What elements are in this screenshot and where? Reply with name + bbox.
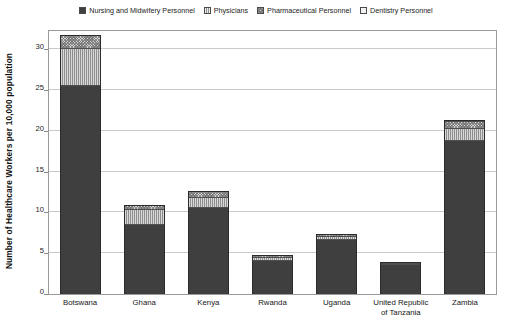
legend-item-nursing: Nursing and Midwifery Personnel xyxy=(79,6,194,15)
bar-kenya[interactable] xyxy=(188,191,229,294)
y-tick-label-0: 0 xyxy=(14,287,44,296)
x-axis-label-united-republic-of-tanzania: United Republicof Tanzania xyxy=(369,298,433,318)
nursing-swatch-icon xyxy=(79,7,86,14)
physicians-swatch-icon xyxy=(204,7,211,14)
bar-slot-rwanda xyxy=(241,31,305,294)
dentistry-swatch-icon xyxy=(360,7,367,14)
x-axis-label-zambia: Zambia xyxy=(433,298,497,318)
bar-segment-nursing[interactable] xyxy=(125,225,164,294)
y-tick-label-25: 25 xyxy=(14,83,44,92)
plot-area xyxy=(48,30,497,295)
y-axis-ticks: 051015202530 xyxy=(0,30,48,295)
x-axis-label-line: United Republic xyxy=(373,298,428,307)
x-axis-label-line: Kenya xyxy=(197,298,219,307)
x-axis-label-botswana: Botswana xyxy=(48,298,112,318)
bar-segment-physicians[interactable] xyxy=(125,210,164,225)
legend-label-nursing: Nursing and Midwifery Personnel xyxy=(89,6,194,15)
bar-slot-kenya xyxy=(177,31,241,294)
bar-segment-pharmaceutical[interactable] xyxy=(445,122,484,129)
bar-rwanda[interactable] xyxy=(252,255,293,294)
bar-uganda[interactable] xyxy=(316,234,357,295)
y-tick-label-15: 15 xyxy=(14,164,44,173)
bar-segment-pharmaceutical[interactable] xyxy=(61,36,100,49)
bar-segment-nursing[interactable] xyxy=(445,141,484,294)
pharmaceutical-swatch-icon xyxy=(257,7,264,14)
stacked-bar-chart: Nursing and Midwifery Personnel Physicia… xyxy=(0,0,512,333)
legend-label-physicians: Physicians xyxy=(214,6,248,15)
bar-united-republic-of-tanzania[interactable] xyxy=(380,262,421,294)
x-axis-label-rwanda: Rwanda xyxy=(240,298,304,318)
x-axis-label-line: Rwanda xyxy=(258,298,287,307)
bar-segment-physicians[interactable] xyxy=(189,198,228,209)
legend-item-physicians: Physicians xyxy=(204,6,248,15)
x-axis-labels: BotswanaGhanaKenyaRwandaUgandaUnited Rep… xyxy=(48,298,497,318)
x-axis-label-kenya: Kenya xyxy=(176,298,240,318)
x-axis-label-line: Zambia xyxy=(452,298,478,307)
x-axis-label-line: Botswana xyxy=(63,298,97,307)
y-tick-label-20: 20 xyxy=(14,123,44,132)
legend-item-dentistry: Dentistry Personnel xyxy=(360,6,433,15)
bar-segment-nursing[interactable] xyxy=(317,240,356,294)
bar-segment-nursing[interactable] xyxy=(61,86,100,294)
y-tick-label-5: 5 xyxy=(14,246,44,255)
bar-slot-united-republic-of-tanzania xyxy=(368,31,432,294)
bar-ghana[interactable] xyxy=(124,205,165,294)
x-axis-label-line: of Tanzania xyxy=(369,308,433,318)
bar-slot-uganda xyxy=(304,31,368,294)
bar-slot-ghana xyxy=(113,31,177,294)
x-axis-label-ghana: Ghana xyxy=(112,298,176,318)
legend-label-dentistry: Dentistry Personnel xyxy=(370,6,433,15)
chart-legend: Nursing and Midwifery Personnel Physicia… xyxy=(0,6,512,15)
bar-segment-nursing[interactable] xyxy=(253,261,292,294)
x-axis-label-line: Uganda xyxy=(323,298,350,307)
legend-item-pharmaceutical: Pharmaceutical Personnel xyxy=(257,6,351,15)
y-tick-label-10: 10 xyxy=(14,205,44,214)
bar-botswana[interactable] xyxy=(60,35,101,294)
bar-segment-physicians[interactable] xyxy=(445,129,484,140)
x-axis-label-line: Ghana xyxy=(133,298,156,307)
bar-slot-botswana xyxy=(49,31,113,294)
y-tick-label-30: 30 xyxy=(14,42,44,51)
bar-slot-zambia xyxy=(432,31,496,294)
legend-label-pharmaceutical: Pharmaceutical Personnel xyxy=(267,6,351,15)
bar-zambia[interactable] xyxy=(444,120,485,294)
bar-segment-physicians[interactable] xyxy=(61,49,100,86)
x-axis-label-uganda: Uganda xyxy=(305,298,369,318)
bar-segment-nursing[interactable] xyxy=(189,208,228,294)
bar-segment-nursing[interactable] xyxy=(381,265,420,294)
bars-container xyxy=(49,31,496,294)
